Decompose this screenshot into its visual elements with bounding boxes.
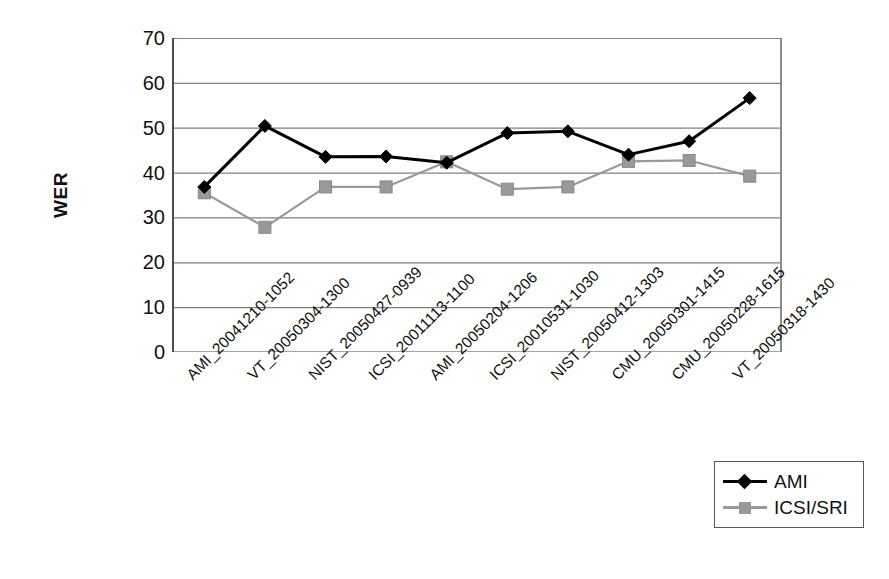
- x-tick-label: VT_20050304-1300: [244, 274, 354, 384]
- diamond-marker-icon: [737, 474, 753, 490]
- x-tick-label: AMI_20041210-1052: [183, 269, 298, 384]
- x-tick-label: NIST_20050412-1303: [547, 263, 668, 384]
- square-marker-icon: [739, 502, 751, 514]
- legend-swatch-ami: [723, 473, 767, 489]
- legend-item-ami: AMI: [723, 468, 855, 494]
- chart-legend: AMI ICSI/SRI: [714, 461, 864, 528]
- x-tick-label: CMU_20050301-1415: [608, 263, 729, 384]
- legend-item-icsi-sri: ICSI/SRI: [723, 494, 855, 520]
- legend-label-ami: AMI: [774, 472, 808, 491]
- x-tick-label: CMU_20050228-1615: [668, 263, 789, 384]
- x-tick-label: VT_20050318-1430: [729, 274, 839, 384]
- legend-label-icsi-sri: ICSI/SRI: [774, 498, 848, 517]
- x-tick-label: ICSI_20010531-1030: [486, 267, 603, 384]
- x-tick-label: ICSI_20011113-1100: [365, 270, 479, 384]
- legend-swatch-icsi-sri: [723, 499, 767, 515]
- x-tick-label: NIST_20050427-0939: [305, 263, 426, 384]
- wer-line-chart: WER 706050403020100 AMI_20041210-1052VT_…: [0, 0, 889, 579]
- x-tick-label: AMI_20050204-1206: [426, 269, 541, 384]
